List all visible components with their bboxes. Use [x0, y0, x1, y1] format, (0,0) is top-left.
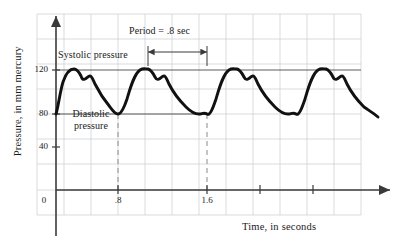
y-tick-label-40: 40 [26, 142, 48, 151]
y-tick-label-80: 80 [26, 109, 48, 118]
x-axis-title: Time, in seconds [242, 222, 316, 233]
y-axis-title: Pressure, in mm mercury [13, 31, 24, 171]
systolic-pressure-annotation: Systolic pressure [58, 50, 128, 60]
period-annotation: Period = .8 sec [129, 26, 190, 36]
blood-pressure-chart: Pressure, in mm mercury Time, in seconds… [0, 0, 407, 244]
x-tick-label-0-8: .8 [106, 196, 130, 205]
y-tick-label-120: 120 [26, 65, 48, 74]
x-tick-label-0: 0 [32, 196, 56, 205]
diastolic-annotation-line1: Diastolic [72, 108, 109, 119]
diastolic-annotation-line2: pressure [74, 120, 108, 131]
x-tick-label-1-6: 1.6 [195, 196, 219, 205]
period-indicator [148, 46, 207, 66]
diastolic-pressure-annotation: Diastolic pressure [62, 108, 120, 132]
